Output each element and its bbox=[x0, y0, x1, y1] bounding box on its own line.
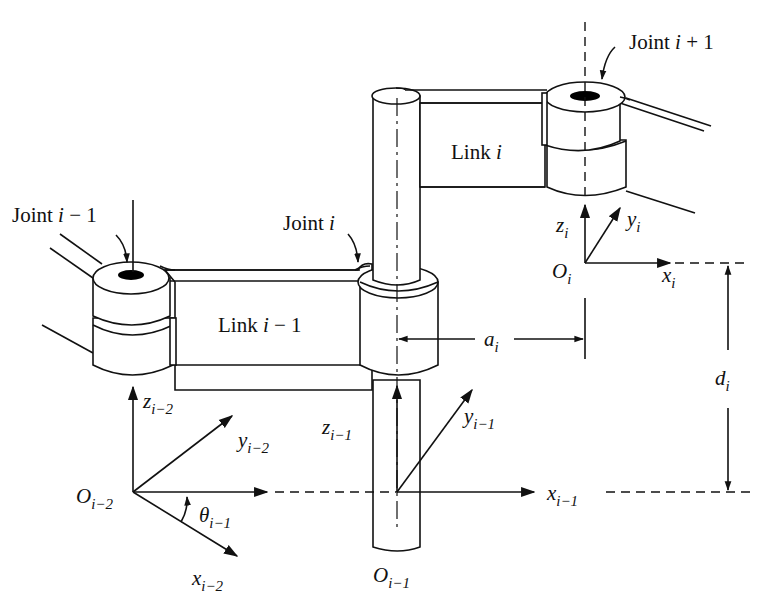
label-origin-i-minus-1: Oi−1 bbox=[373, 563, 410, 591]
label-link-i: Link i bbox=[451, 140, 502, 164]
dh-diagram: Joint i − 1 Joint i Joint i + 1 Link i −… bbox=[0, 0, 761, 605]
label-y-i-minus-2: yi−2 bbox=[236, 428, 270, 456]
label-joint-i-minus-1: Joint i − 1 bbox=[12, 203, 97, 227]
label-z-i-minus-2: zi−2 bbox=[142, 389, 173, 417]
label-y-i: yi bbox=[625, 207, 641, 235]
label-x-i-minus-2: xi−2 bbox=[191, 566, 224, 594]
joint-i-leader bbox=[348, 234, 358, 262]
label-d-i: di bbox=[715, 366, 730, 394]
frame-i bbox=[585, 205, 750, 263]
label-joint-i-plus-1: Joint i + 1 bbox=[629, 30, 714, 54]
label-origin-i-minus-2: Oi−2 bbox=[76, 484, 113, 512]
joint-i-minus-1-leader bbox=[116, 235, 127, 262]
label-origin-i: Oi bbox=[552, 259, 571, 287]
label-x-i: xi bbox=[661, 263, 676, 291]
label-theta-i-minus-1: θi−1 bbox=[199, 503, 231, 531]
frame-i-minus-1 bbox=[397, 386, 750, 492]
label-z-i-minus-1: zi−1 bbox=[321, 415, 352, 443]
label-y-i-minus-1: yi−1 bbox=[462, 404, 495, 432]
label-x-i-minus-1: xi−1 bbox=[546, 481, 578, 509]
label-z-i: zi bbox=[555, 213, 568, 241]
joint-i-plus-1-leader bbox=[602, 47, 615, 79]
label-joint-i: Joint i bbox=[283, 211, 335, 235]
label-a-i: ai bbox=[484, 327, 499, 355]
label-link-i-minus-1: Link i − 1 bbox=[218, 313, 302, 337]
